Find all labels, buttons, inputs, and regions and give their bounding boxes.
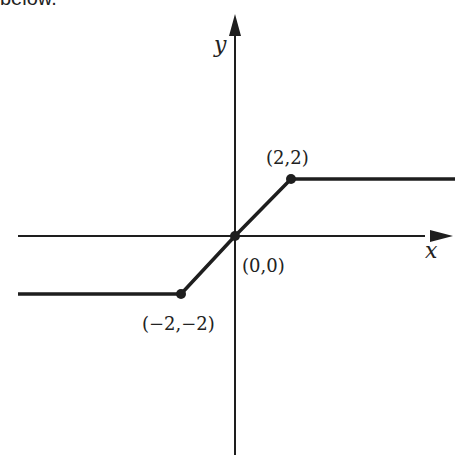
- x-axis-label: x: [425, 238, 438, 263]
- function-graph: y x (2,2) (0,0) (−2,−2): [0, 0, 458, 455]
- y-axis-arrow-icon: [229, 14, 241, 36]
- point-label-neg: (−2,−2): [142, 313, 215, 334]
- y-axis-label: y: [213, 32, 227, 57]
- point-origin: [230, 231, 240, 241]
- point-label-pos: (2,2): [266, 147, 309, 168]
- point-neg2-neg2: [176, 289, 186, 299]
- point-label-origin: (0,0): [242, 255, 285, 276]
- point-2-2: [286, 174, 296, 184]
